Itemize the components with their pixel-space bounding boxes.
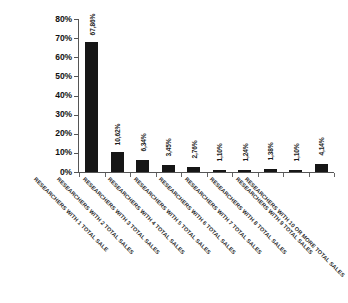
bar[interactable] <box>264 169 277 172</box>
y-tick-label: 80% <box>44 15 72 24</box>
bar-slot[interactable]: 10,62% <box>111 19 124 172</box>
bar[interactable] <box>315 164 328 172</box>
x-tick-mark <box>156 173 157 177</box>
x-tick-mark <box>207 173 208 177</box>
y-tick-mark <box>74 57 78 58</box>
x-tick-mark <box>232 173 233 177</box>
bar[interactable] <box>162 165 175 172</box>
y-tick-mark <box>74 172 78 173</box>
bar-slot[interactable]: 1,10% <box>289 19 302 172</box>
bar-slot[interactable]: 1,24% <box>238 19 251 172</box>
bar-value-label: 4,14% <box>318 137 325 155</box>
bar-slot[interactable]: 3,45% <box>162 19 175 172</box>
bar-value-label: 2,76% <box>190 140 197 158</box>
bar-chart: 0%10%20%30%40%50%60%70%80% 67,86%10,62%6… <box>0 0 348 303</box>
bar-value-label: 1,10% <box>216 143 223 161</box>
bar-slot[interactable]: 4,14% <box>315 19 328 172</box>
bar-value-label: 67,86% <box>88 14 95 36</box>
y-tick-mark <box>74 19 78 20</box>
x-tick-mark <box>283 173 284 177</box>
bar-value-label: 1,10% <box>292 143 299 161</box>
bar[interactable] <box>136 160 149 172</box>
bar-slot[interactable]: 1,38% <box>264 19 277 172</box>
y-tick-mark <box>74 96 78 97</box>
bar-slot[interactable]: 1,10% <box>213 19 226 172</box>
y-tick-label: 60% <box>44 53 72 62</box>
x-tick-mark <box>309 173 310 177</box>
y-tick-label: 10% <box>44 148 72 157</box>
y-tick-mark <box>74 115 78 116</box>
x-tick-mark <box>130 173 131 177</box>
bar[interactable] <box>289 170 302 172</box>
y-tick-label: 40% <box>44 91 72 100</box>
y-tick-label: 30% <box>44 110 72 119</box>
bar-value-label: 10,62% <box>114 123 121 145</box>
y-tick-mark <box>74 76 78 77</box>
y-tick-label: 20% <box>44 129 72 138</box>
x-axis-category-labels: RESEARCHERS WITH 1 TOTAL SALERESEARCHERS… <box>0 176 348 303</box>
y-axis: 0%10%20%30%40%50%60%70%80% <box>44 12 72 180</box>
y-tick-mark <box>74 134 78 135</box>
x-tick-mark <box>334 173 335 177</box>
y-tick-mark <box>74 153 78 154</box>
plot-area: 67,86%10,62%6,34%3,45%2,76%1,10%1,24%1,3… <box>79 19 334 172</box>
bar-slot[interactable]: 67,86% <box>85 19 98 172</box>
bar[interactable] <box>187 167 200 172</box>
x-tick-mark <box>258 173 259 177</box>
bar[interactable] <box>85 42 98 172</box>
bar-value-label: 1,38% <box>267 143 274 161</box>
x-tick-mark <box>181 173 182 177</box>
y-tick-label: 50% <box>44 72 72 81</box>
y-tick-label: 70% <box>44 34 72 43</box>
bar-slot[interactable]: 6,34% <box>136 19 149 172</box>
bar[interactable] <box>213 170 226 172</box>
bar-value-label: 1,24% <box>241 143 248 161</box>
bar-value-label: 6,34% <box>139 133 146 151</box>
x-tick-mark <box>105 173 106 177</box>
bar[interactable] <box>111 152 124 172</box>
x-tick-mark <box>79 173 80 177</box>
bar[interactable] <box>238 170 251 172</box>
bar-value-label: 3,45% <box>165 139 172 157</box>
y-tick-mark <box>74 38 78 39</box>
bar-slot[interactable]: 2,76% <box>187 19 200 172</box>
